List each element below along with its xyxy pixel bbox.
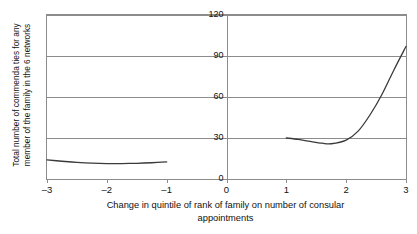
x-tick-label: 2 bbox=[331, 185, 361, 195]
x-tick-mark bbox=[406, 179, 407, 183]
data-series-layer bbox=[47, 15, 406, 179]
plot-area: 0306090120 –3–2–10123 bbox=[46, 14, 407, 180]
chart-figure: Total number of commenda ties for any me… bbox=[0, 0, 417, 234]
x-tick-label: 0 bbox=[212, 185, 242, 195]
line-series-left bbox=[47, 160, 167, 164]
line-series-right bbox=[286, 46, 406, 143]
x-tick-label: –3 bbox=[32, 185, 62, 195]
x-tick-mark bbox=[227, 179, 228, 183]
x-tick-mark bbox=[346, 179, 347, 183]
x-tick-mark bbox=[47, 179, 48, 183]
x-tick-mark bbox=[286, 179, 287, 183]
x-tick-label: 3 bbox=[391, 185, 417, 195]
x-tick-label: 1 bbox=[271, 185, 301, 195]
x-axis-title: Change in quintile of rank of family on … bbox=[46, 199, 405, 224]
x-axis-title-line-1: Change in quintile of rank of family on … bbox=[107, 200, 345, 210]
y-axis-title-line-1: Total number of commenda ties for any bbox=[11, 1, 22, 189]
x-tick-label: –2 bbox=[92, 185, 122, 195]
y-axis-title-line-2: member of the family in the 6 networks bbox=[22, 1, 33, 189]
x-tick-label: –1 bbox=[152, 185, 182, 195]
x-tick-mark bbox=[167, 179, 168, 183]
x-axis-title-line-2: appointments bbox=[198, 213, 254, 223]
y-axis-title-text: Total number of commenda ties for any me… bbox=[11, 1, 33, 189]
y-axis-title: Total number of commenda ties for any me… bbox=[0, 0, 44, 190]
x-tick-mark bbox=[107, 179, 108, 183]
